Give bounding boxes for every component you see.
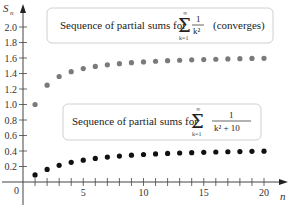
data-point (177, 150, 182, 155)
data-point (189, 57, 194, 62)
x-axis-label: n (280, 190, 286, 202)
x-ticks: 5101520 (35, 178, 269, 198)
y-axis-arrow-icon (20, 4, 26, 13)
y-tick-label: 1.8 (5, 37, 18, 48)
y-tick-label: 1.4 (5, 68, 18, 79)
y-tick-label: 2.0 (5, 22, 18, 33)
data-point (93, 156, 98, 161)
legend-text: Sequence of partial sums for (60, 19, 186, 31)
data-point (45, 83, 50, 88)
data-point (237, 149, 242, 154)
data-point (249, 56, 254, 61)
data-point (57, 74, 62, 79)
data-point (261, 149, 266, 154)
data-point (141, 59, 146, 64)
data-point (225, 56, 230, 61)
data-point (153, 151, 158, 156)
fraction-numerator: 1 (229, 110, 234, 120)
legend-box-k2-plus-10: Sequence of partial sums for ∞ Σ k=1 1 k… (63, 104, 261, 140)
series-1 (32, 56, 266, 107)
data-point (225, 149, 230, 154)
x-tick-label: 20 (259, 187, 269, 198)
data-point (237, 56, 242, 61)
y-ticks: 0.20.40.60.81.01.21.41.61.82.0 (5, 22, 28, 173)
sigma-icon: Σ (178, 15, 191, 36)
data-point (105, 62, 110, 67)
data-point (153, 59, 158, 64)
data-point (249, 149, 254, 154)
data-point (261, 56, 266, 61)
y-tick-label: 0.2 (5, 161, 18, 172)
origin-label: 0 (14, 185, 19, 196)
data-point (213, 57, 218, 62)
partial-sums-chart: 5101520 0.20.40.60.81.01.21.41.61.82.0 0… (0, 0, 292, 211)
data-point (117, 61, 122, 66)
data-point (129, 60, 134, 65)
data-point (57, 163, 62, 168)
data-point (189, 150, 194, 155)
y-tick-label: 0.4 (5, 146, 18, 157)
fraction-denominator: k² + 10 (214, 123, 240, 133)
data-point (32, 102, 37, 107)
svg-text:S: S (3, 2, 9, 14)
x-tick-label: 15 (199, 187, 209, 198)
data-point (117, 153, 122, 158)
data-point (201, 150, 206, 155)
legend-suffix: (converges) (213, 19, 265, 32)
data-point (93, 64, 98, 69)
data-point (165, 58, 170, 63)
y-tick-label: 0.8 (5, 115, 18, 126)
data-point (213, 149, 218, 154)
sigma-bottom: k=1 (179, 35, 188, 41)
sigma-icon: Σ (191, 111, 204, 132)
data-point (81, 66, 86, 71)
data-point (141, 152, 146, 157)
data-point (177, 58, 182, 63)
sigma-bottom: k=1 (192, 131, 201, 137)
legend-text: Sequence of partial sums for (72, 115, 198, 127)
data-point (105, 155, 110, 160)
data-point (69, 69, 74, 74)
y-axis-label: S n (3, 2, 14, 17)
data-point (45, 167, 50, 172)
x-tick-label: 10 (139, 187, 149, 198)
y-tick-label: 1.2 (5, 84, 18, 95)
y-tick-label: 0.6 (5, 130, 18, 141)
data-point (69, 160, 74, 165)
x-axis-arrow-icon (279, 179, 288, 185)
y-tick-label: 1.6 (5, 53, 18, 64)
svg-text:n: n (10, 9, 14, 17)
data-point (165, 151, 170, 156)
series-2 (32, 149, 266, 178)
fraction-numerator: 1 (196, 14, 201, 24)
legend-box-converges: Sequence of partial sums for ∞ Σ k=1 1 k… (47, 8, 273, 43)
y-tick-label: 1.0 (5, 99, 18, 110)
x-tick-label: 5 (81, 187, 86, 198)
data-point (201, 57, 206, 62)
fraction-denominator: k² (193, 26, 201, 36)
data-point (81, 158, 86, 163)
data-point (129, 153, 134, 158)
data-point (32, 172, 37, 177)
